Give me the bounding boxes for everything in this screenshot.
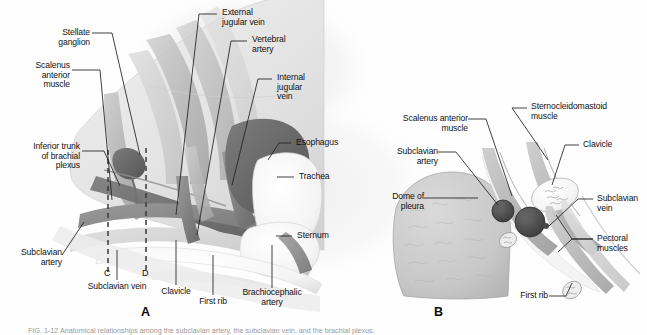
- label-clavicle-a: Clavicle: [150, 287, 202, 297]
- figure-caption: FIG. 1-12 Anatomical relationships among…: [28, 326, 628, 335]
- label-subclavian-vein-b: Subclavian vein: [597, 194, 647, 213]
- label-scalenus-anterior-muscle-b: Scalenus anterior muscle: [372, 114, 468, 133]
- nerve-bundle: [543, 223, 549, 229]
- panel-letter-b: B: [434, 305, 443, 319]
- label-pectoral-muscles: Pectoral muscles: [597, 234, 647, 253]
- label-brachiocephalic-artery: Brachiocephalic artery: [237, 288, 307, 307]
- label-subclavian-vein-a: Subclavian vein: [73, 282, 161, 292]
- section-marker-c: C: [104, 268, 111, 278]
- label-dome-of-pleura: Dome of pleura: [356, 192, 424, 211]
- label-external-jugular-vein: External jugular vein: [222, 8, 300, 27]
- section-marker-d: D: [142, 268, 149, 278]
- label-esophagus: Esophagus: [296, 138, 350, 148]
- label-trachea: Trachea: [299, 172, 347, 182]
- label-sternum: Sternum: [297, 231, 345, 241]
- label-stellate-ganglion: Stellate ganglion: [18, 28, 90, 47]
- label-vertebral-artery: Vertebral artery: [252, 35, 316, 54]
- label-first-rib-b: First rib: [500, 291, 548, 301]
- label-sternocleidomastoid-muscle: Sternocleidomastoid muscle: [531, 102, 643, 121]
- label-clavicle-b: Clavicle: [583, 140, 635, 150]
- label-first-rib-a: First rib: [190, 297, 236, 307]
- label-internal-jugular-vein: Internal jugular vein: [277, 73, 321, 102]
- label-inferior-trunk-of-brachial-plexus: Inferior trunk of brachial plexus: [0, 142, 80, 171]
- label-subclavian-artery-a: Subclavian artery: [0, 248, 62, 267]
- panel-letter-a: A: [141, 305, 150, 319]
- label-scalenus-anterior-muscle: Scalenus anterior muscle: [0, 61, 70, 90]
- label-subclavian-artery-b: Subclavian artery: [374, 147, 438, 166]
